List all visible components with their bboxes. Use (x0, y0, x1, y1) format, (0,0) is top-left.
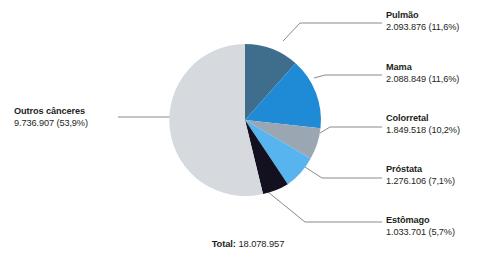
callout-outros-canceres: Outros cânceres 9.736.907 (53,9%) (14, 106, 88, 129)
callout-label-outros-canceres: Outros cânceres (14, 106, 88, 117)
total-row: Total: 18.078.957 (0, 238, 496, 249)
total-label: Total: (212, 238, 236, 249)
callout-pulmao: Pulmão 2.093.876 (11,6%) (386, 10, 459, 33)
callout-label-pulmao: Pulmão (386, 10, 459, 21)
total-value: 18.078.957 (238, 238, 284, 249)
callout-label-estomago: Estômago (386, 215, 455, 226)
callout-mama: Mama 2.088.849 (11,6%) (386, 62, 459, 85)
callout-colorretal: Colorretal 1.849.518 (10,2%) (386, 113, 460, 136)
pie-chart-figure: Pulmão 2.093.876 (11,6%) Mama 2.088.849 … (0, 0, 496, 264)
callout-value-colorretal: 1.849.518 (10,2%) (386, 125, 460, 136)
callout-estomago: Estômago 1.033.701 (5,7%) (386, 215, 455, 238)
callout-value-mama: 2.088.849 (11,6%) (386, 74, 459, 85)
callout-label-mama: Mama (386, 62, 459, 73)
leader-line-mama (314, 75, 382, 78)
callout-prostata: Próstata 1.276.106 (7,1%) (386, 164, 455, 187)
callout-value-pulmao: 2.093.876 (11,6%) (386, 22, 459, 33)
callout-label-prostata: Próstata (386, 164, 455, 175)
leader-line-prostata (305, 167, 382, 178)
callout-value-prostata: 1.276.106 (7,1%) (386, 176, 455, 187)
callout-value-outros-canceres: 9.736.907 (53,9%) (14, 118, 88, 129)
pie-slices (169, 44, 321, 196)
callout-label-colorretal: Colorretal (386, 113, 460, 124)
callout-value-estomago: 1.033.701 (5,7%) (386, 227, 455, 238)
leader-line-estomago (268, 192, 382, 222)
leader-line-colorretal (320, 127, 382, 133)
leader-line-pulmao (283, 23, 382, 41)
